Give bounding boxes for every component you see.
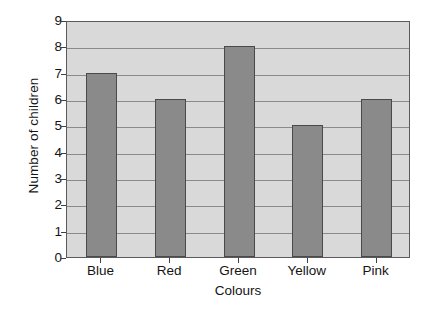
y-axis-tick-mark [61, 126, 66, 127]
y-axis-tick-mark [61, 179, 66, 180]
bar [292, 125, 323, 257]
y-axis-tick-mark [61, 100, 66, 101]
x-axis-tick-label: Blue [66, 263, 135, 279]
bar [361, 99, 392, 257]
x-axis-tick-label: Pink [341, 263, 410, 279]
bar [155, 99, 186, 257]
y-axis-tick-mark [61, 153, 66, 154]
y-axis-tick-label: 2 [40, 198, 62, 212]
y-axis-tick-label: 1 [40, 225, 62, 239]
y-axis-tick-label: 4 [40, 146, 62, 160]
x-axis-tick-label: Green [204, 263, 273, 279]
x-axis-tick-label: Red [135, 263, 204, 279]
y-axis-tick-labels: 0123456789 [36, 0, 62, 309]
bar [224, 46, 255, 257]
bar-chart: Number of children 0123456789 BlueRedGre… [0, 0, 427, 309]
y-axis-tick-mark [61, 205, 66, 206]
y-axis-tick-mark [61, 232, 66, 233]
y-axis-tick-label: 7 [40, 67, 62, 81]
y-axis-tick-mark [61, 74, 66, 75]
y-axis-tick-mark [61, 21, 66, 22]
x-axis-tick-label: Yellow [272, 263, 341, 279]
bars-layer [67, 22, 409, 257]
plot-area [66, 21, 410, 258]
y-axis-tick-mark [61, 47, 66, 48]
y-axis-tick-label: 8 [40, 40, 62, 54]
x-axis-title: Colours [66, 283, 410, 298]
y-axis-tick-label: 6 [40, 93, 62, 107]
x-axis-tick-labels: BlueRedGreenYellowPink [66, 263, 410, 283]
y-axis-tick-label: 0 [40, 251, 62, 265]
y-axis-tick-label: 3 [40, 172, 62, 186]
bar [86, 73, 117, 257]
y-axis-tick-label: 9 [40, 14, 62, 28]
y-axis-tick-mark [61, 258, 66, 259]
y-axis-tick-label: 5 [40, 119, 62, 133]
